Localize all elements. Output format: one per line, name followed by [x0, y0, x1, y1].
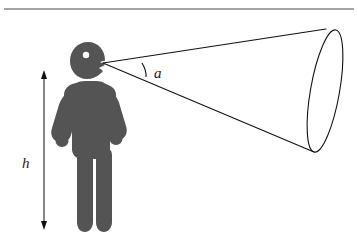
angle-label: a [154, 65, 162, 81]
cone-lower-edge [103, 63, 314, 152]
height-dimension [41, 70, 47, 230]
person-hand-left [56, 135, 69, 147]
angle-arc [142, 63, 146, 77]
person-hand-right [110, 133, 123, 145]
person-pictogram [51, 42, 127, 232]
height-arrowhead-top [41, 70, 47, 79]
person-eye [83, 52, 89, 58]
height-arrowhead-bottom [41, 221, 47, 230]
figure-root: a h [0, 0, 358, 250]
cone-upper-edge [103, 29, 326, 63]
field-of-view-cone [103, 27, 350, 154]
person-leg-right [96, 150, 112, 232]
cone-base-ellipse [300, 27, 350, 154]
height-label: h [22, 155, 30, 171]
diagram-canvas: a h [0, 0, 358, 250]
person-leg-left [77, 150, 93, 232]
person-head [70, 42, 105, 79]
